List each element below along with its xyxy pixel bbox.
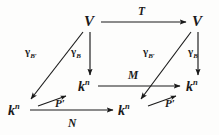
node-V-left: V <box>84 14 94 29</box>
node-kn-mid-right: kn <box>186 78 198 94</box>
arrow-gamma-Bprime-right <box>141 32 191 99</box>
arrow-gamma-Bprime-left <box>31 32 83 99</box>
node-kn-bottom-right: kn <box>118 102 130 118</box>
node-kn-bottom-left-exponent: n <box>15 101 20 111</box>
edge-label-gamma-Bprime-right: γB′ <box>143 46 155 60</box>
gamma-subscript-left-prime: B′ <box>30 52 37 60</box>
edge-label-gamma-B-right: γB <box>188 46 198 60</box>
gamma-subscript-right-prime: B′ <box>148 52 155 60</box>
node-kn-bottom-right-base: k <box>118 103 125 118</box>
edge-label-M: M <box>128 70 138 82</box>
edge-label-gamma-B-left: γB <box>71 46 81 60</box>
node-kn-mid-left-exponent: n <box>85 77 90 87</box>
node-kn-mid-left: kn <box>78 78 90 94</box>
diagram-arrows-canvas <box>0 0 219 135</box>
edge-label-N: N <box>68 118 76 130</box>
gamma-subscript-right: B <box>193 52 198 60</box>
node-kn-bottom-left: kn <box>8 102 20 118</box>
edge-label-P-left: P′ <box>55 98 65 109</box>
edge-label-T: T <box>138 6 145 18</box>
node-kn-mid-left-base: k <box>78 79 85 94</box>
edge-label-P-right: P′ <box>165 98 175 109</box>
node-V-right: V <box>192 14 202 29</box>
gamma-subscript-left: B <box>76 52 81 60</box>
edge-label-gamma-Bprime-left: γB′ <box>25 46 37 60</box>
node-kn-mid-right-exponent: n <box>193 77 198 87</box>
commutative-diagram: V V kn kn kn kn T M N γB′ γB γB′ γB P′ P… <box>0 0 219 135</box>
node-kn-mid-right-base: k <box>186 79 193 94</box>
node-kn-bottom-left-base: k <box>8 103 15 118</box>
node-kn-bottom-right-exponent: n <box>125 101 130 111</box>
